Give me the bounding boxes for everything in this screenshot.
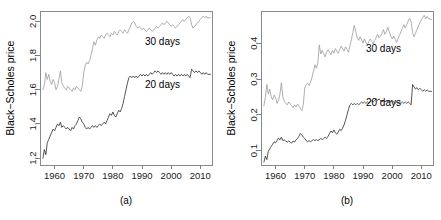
x-tick-label: 1980: [102, 170, 123, 181]
series-annotation: 20 days: [145, 79, 180, 90]
series-annotation: 30 days: [366, 43, 401, 54]
x-tick-label: 1960: [44, 170, 65, 181]
panel-a: 1960197019801990200020101.21.41.61.82.0B…: [0, 0, 220, 220]
x-tick-label: 2010: [190, 170, 211, 181]
series-line-30-days: [43, 16, 211, 91]
plot-a: 1960197019801990200020101.21.41.61.82.0B…: [0, 0, 220, 220]
y-tick-label: 0.4: [248, 37, 259, 50]
y-tick-label: 1.6: [27, 83, 38, 96]
y-tick-label: 0.2: [248, 108, 259, 121]
panel-caption: (a): [120, 195, 132, 206]
panel-b: 1960197019801990200020100.10.20.30.4Blac…: [221, 0, 441, 220]
x-tick-label: 2000: [382, 170, 403, 181]
figure-two-panel-black-scholes: 1960197019801990200020101.21.41.61.82.0B…: [0, 0, 441, 220]
x-tick-label: 1960: [265, 170, 286, 181]
y-tick-label: 1.2: [27, 152, 38, 165]
y-tick-label: 2.0: [27, 15, 38, 28]
y-tick-label: 0.3: [248, 72, 259, 85]
x-tick-label: 1990: [352, 170, 373, 181]
x-tick-label: 1970: [73, 170, 94, 181]
panel-caption: (b): [341, 195, 353, 206]
series-line-20-days: [43, 69, 211, 158]
y-tick-label: 1.4: [27, 117, 38, 130]
series-annotation: 30 days: [145, 36, 180, 47]
series-line-20-days: [264, 84, 432, 162]
x-tick-label: 2000: [161, 170, 182, 181]
series-annotation: 20 days: [366, 97, 401, 108]
x-tick-label: 1970: [294, 170, 315, 181]
y-axis-title: Black−Scholes price: [225, 40, 237, 135]
x-tick-label: 2010: [411, 170, 432, 181]
series-line-30-days: [264, 15, 432, 110]
x-tick-label: 1990: [131, 170, 152, 181]
y-axis-title: Black−Scholes price: [4, 40, 16, 135]
x-tick-label: 1980: [323, 170, 344, 181]
plot-b: 1960197019801990200020100.10.20.30.4Blac…: [221, 0, 441, 220]
y-tick-label: 1.8: [27, 49, 38, 62]
y-tick-label: 0.1: [248, 144, 259, 157]
